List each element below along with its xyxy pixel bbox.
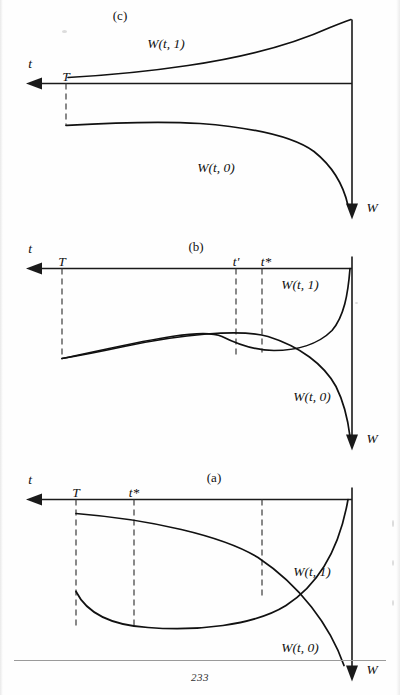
figure-stage: T t* W t W(t, 0) W(t, 1) (0, 0, 400, 695)
figure-panel-b: T t' t* W t W(t, 0) (0, 233, 400, 464)
tick-label-tstar: t* (129, 485, 140, 500)
axis-label-W: W (366, 430, 379, 445)
axis-label-t: t (28, 55, 33, 70)
panel-caption-c: (c) (113, 7, 127, 22)
scanned-figure-page: T t* W t W(t, 0) W(t, 1) (0, 0, 400, 695)
axis-label-t: t (28, 471, 33, 486)
tick-label-T: T (62, 69, 71, 84)
curve-label-w-t-1: W(t, 1) (147, 35, 185, 50)
curve-label-w-t-1: W(t, 1) (281, 276, 319, 291)
curve-label-w-t-1: W(t, 1) (293, 563, 331, 578)
axis-label-W: W (366, 199, 379, 214)
tick-label-T: T (72, 485, 81, 500)
curve-label-w-t-0: W(t, 0) (197, 159, 235, 174)
tick-label-tstar: t* (261, 254, 272, 269)
curve-label-w-t-0: W(t, 0) (293, 388, 331, 403)
panel-caption-b: (b) (188, 238, 203, 253)
panel-caption-a: (a) (207, 469, 221, 484)
axis-label-t: t (28, 240, 33, 255)
figure-panel-c: T W t W(t, 0) W(t, 1) (c) (0, 2, 400, 233)
tick-label-T: T (58, 254, 67, 269)
page-folio: 233 (0, 671, 400, 683)
curve-label-w-t-0: W(t, 0) (281, 639, 319, 654)
page-rule (14, 660, 386, 661)
tick-label-tprime: t' (233, 254, 241, 269)
